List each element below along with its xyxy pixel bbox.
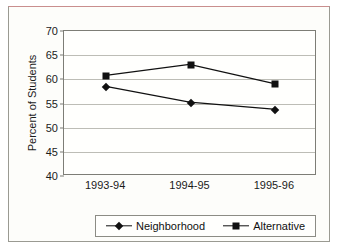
legend-label: Alternative xyxy=(253,220,305,232)
chart-frame: Percent of Students 40455055606570 1993-… xyxy=(8,6,330,242)
y-axis-tick-label: 65 xyxy=(46,50,58,61)
legend-key-marker xyxy=(233,223,240,230)
x-axis-tick-label: 1994-95 xyxy=(169,179,209,191)
y-axis-tick-label: 60 xyxy=(46,74,58,85)
y-axis-title-label: Percent of Students xyxy=(26,54,38,151)
y-axis-tick-label: 45 xyxy=(46,146,58,157)
plot-area: 40455055606570 xyxy=(63,30,316,175)
x-axis-tick-label: 1993-94 xyxy=(85,179,125,191)
legend-marker-square-icon xyxy=(223,221,249,231)
legend-entry-alternative[interactable]: Alternative xyxy=(223,220,305,232)
legend-entry-neighborhood[interactable]: Neighborhood xyxy=(106,220,205,232)
legend-key-marker xyxy=(115,222,123,230)
data-point-alternative-1995-96 xyxy=(271,81,278,88)
legend-label: Neighborhood xyxy=(136,220,205,232)
x-axis-tick-label: 1995-96 xyxy=(254,179,294,191)
chart-legend: NeighborhoodAlternative xyxy=(95,215,316,237)
y-axis-tick-label: 50 xyxy=(46,122,58,133)
y-axis-tick xyxy=(60,176,64,177)
legend-marker-diamond-icon xyxy=(106,221,132,231)
y-axis-tick-label: 55 xyxy=(46,98,58,109)
data-point-alternative-1993-94 xyxy=(103,72,110,79)
y-axis-title: Percent of Students xyxy=(25,30,39,175)
y-axis-tick-label: 70 xyxy=(46,26,58,37)
y-axis-tick-label: 40 xyxy=(46,171,58,182)
data-point-alternative-1994-95 xyxy=(187,61,194,68)
x-axis-labels: 1993-941994-951995-96 xyxy=(63,179,316,195)
